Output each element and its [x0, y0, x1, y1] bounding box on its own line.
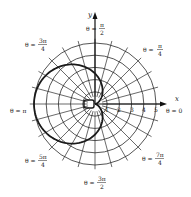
grid-spoke: [97, 111, 112, 167]
tick-4: 4: [142, 106, 146, 113]
svg-text:4: 4: [158, 159, 162, 166]
svg-text:4: 4: [158, 50, 162, 57]
svg-text:π: π: [100, 21, 104, 28]
svg-text:θ = π: θ = π: [10, 107, 26, 114]
svg-text:7π: 7π: [156, 151, 164, 158]
tick-1: 1: [105, 106, 109, 113]
tick-2: 2: [117, 106, 121, 113]
label-theta-0: θ = 0: [166, 107, 182, 114]
tick-3: 3: [130, 106, 134, 113]
svg-text:θ =: θ =: [25, 157, 36, 164]
svg-text:2: 2: [100, 183, 104, 190]
svg-text:4: 4: [41, 161, 45, 168]
grid-spoke: [78, 111, 93, 167]
tick-5: 5: [154, 106, 158, 113]
grid-spoke: [102, 87, 158, 102]
svg-text:4: 4: [41, 45, 45, 52]
svg-text:2: 2: [100, 29, 104, 36]
svg-text:θ =: θ =: [143, 46, 154, 53]
svg-text:θ =: θ =: [84, 179, 95, 186]
grid-spoke: [32, 87, 88, 102]
grid-spoke: [101, 71, 151, 100]
polar-graph: x y 1 2 3 4 5 θ = 0 θ = π 4 θ = π 2: [0, 0, 191, 197]
label-theta-pi-4: θ = π 4: [143, 42, 163, 57]
grid-spoke: [100, 58, 141, 99]
label-theta-5pi-4: θ = 5π 4: [25, 153, 47, 168]
y-axis-arrow-icon: [93, 12, 98, 19]
grid-spoke: [100, 109, 141, 150]
label-theta-pi: θ = π: [10, 107, 26, 114]
radial-tick-labels: 1 2 3 4 5: [105, 106, 158, 113]
x-axis-arrow-icon: [160, 102, 167, 107]
x-axis-label: x: [175, 95, 179, 103]
svg-text:5π: 5π: [39, 153, 47, 160]
grid-spoke: [62, 47, 91, 97]
svg-text:θ =: θ =: [25, 41, 36, 48]
grid-spoke: [32, 106, 88, 121]
grid-spoke: [97, 41, 112, 97]
svg-text:3π: 3π: [98, 175, 106, 182]
label-theta-3pi-2: θ = 3π 2: [84, 175, 106, 190]
svg-text:π: π: [158, 42, 162, 49]
y-axis-label: y: [87, 11, 93, 19]
grid-spoke: [78, 41, 93, 97]
grid-spoke: [62, 110, 91, 160]
svg-text:θ =: θ =: [142, 155, 153, 162]
svg-text:θ = 0: θ = 0: [166, 107, 182, 114]
label-theta-3pi-4: θ = 3π 4: [25, 37, 47, 52]
svg-text:θ =: θ =: [86, 25, 97, 32]
svg-text:3π: 3π: [39, 37, 47, 44]
label-theta-7pi-4: θ = 7π 4: [142, 151, 164, 166]
